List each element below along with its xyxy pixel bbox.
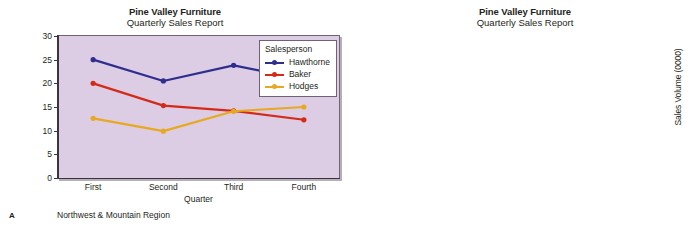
- series-point-hodges: [301, 104, 306, 109]
- chart-a-x-axis-title: Quarter: [58, 194, 339, 204]
- chart-a-y-tick: [54, 178, 58, 179]
- legend-item-baker[interactable]: Baker: [265, 68, 330, 80]
- chart-a-y-tick-label: 5: [47, 150, 52, 159]
- chart-a-x-tick-label: Fourth: [292, 182, 317, 192]
- legend-label-hodges: Hodges: [289, 81, 318, 92]
- chart-b-title: Pine Valley Furniture: [350, 6, 700, 17]
- chart-a-x-tick-label: First: [85, 182, 102, 192]
- chart-a-y-tick-label: 30: [43, 32, 52, 41]
- chart-a-y-tick-label: 15: [43, 103, 52, 112]
- series-point-hodges: [161, 129, 166, 134]
- series-point-hawthorne: [91, 57, 96, 62]
- panel-b-bar-chart: Pine Valley Furniture Quarterly Sales Re…: [350, 0, 700, 234]
- chart-a-legend: Salesperson HawthorneBakerHodges: [259, 40, 337, 97]
- chart-a-y-tick-label: 0: [47, 174, 52, 183]
- chart-a-title: Pine Valley Furniture: [0, 6, 350, 17]
- panel-a-letter: A: [9, 211, 15, 221]
- chart-b-subtitle: Quarterly Sales Report: [350, 17, 700, 28]
- legend-label-hawthorne: Hawthorne: [289, 57, 330, 68]
- chart-a-plot-area: 051015202530FirstSecondThirdFourthQuarte…: [57, 35, 340, 179]
- chart-a-y-tick-label: 10: [43, 126, 52, 135]
- chart-a-x-tick-label: Third: [224, 182, 243, 192]
- chart-b-title-block: Pine Valley Furniture Quarterly Sales Re…: [350, 6, 700, 28]
- series-point-baker: [91, 81, 96, 86]
- chart-a-y-tick-label: 25: [43, 55, 52, 64]
- panel-a-caption: Northwest & Mountain Region: [57, 210, 170, 220]
- chart-b-y-axis-title: Sales Volume (0000): [673, 32, 683, 142]
- chart-a-subtitle: Quarterly Sales Report: [0, 17, 350, 28]
- chart-a-legend-rows: HawthorneBakerHodges: [265, 56, 330, 92]
- legend-item-hawthorne[interactable]: Hawthorne: [265, 56, 330, 68]
- chart-a-title-block: Pine Valley Furniture Quarterly Sales Re…: [0, 6, 350, 28]
- chart-a-x-tick-label: Second: [149, 182, 178, 192]
- series-line-hodges: [93, 107, 304, 131]
- series-point-baker: [161, 103, 166, 108]
- panel-a-line-chart: Pine Valley Furniture Quarterly Sales Re…: [0, 0, 350, 234]
- series-point-baker: [301, 117, 306, 122]
- series-point-hodges: [231, 109, 236, 114]
- legend-line-marker-hawthorne-icon: [265, 57, 284, 68]
- legend-item-hodges[interactable]: Hodges: [265, 80, 330, 92]
- chart-a-y-tick-label: 20: [43, 79, 52, 88]
- legend-line-marker-hodges-icon: [265, 81, 284, 92]
- series-point-hawthorne: [161, 78, 166, 83]
- chart-a-legend-title: Salesperson: [265, 44, 330, 55]
- series-point-hodges: [91, 116, 96, 121]
- legend-line-marker-baker-icon: [265, 69, 284, 80]
- series-point-hawthorne: [231, 63, 236, 68]
- legend-label-baker: Baker: [289, 69, 311, 80]
